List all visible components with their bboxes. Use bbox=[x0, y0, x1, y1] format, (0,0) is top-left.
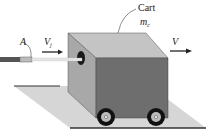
jet-velocity-subscript: j bbox=[50, 42, 52, 48]
water-jet bbox=[32, 58, 82, 61]
cart-label: Cart bbox=[138, 3, 155, 13]
cart-velocity-arrowhead bbox=[186, 49, 192, 54]
nozzle bbox=[20, 57, 32, 62]
cart-velocity-label: V bbox=[172, 37, 178, 47]
cart-leader-line bbox=[118, 9, 136, 33]
hose bbox=[0, 57, 20, 62]
jet-velocity-arrowhead bbox=[58, 50, 63, 55]
wheel-front bbox=[147, 108, 165, 126]
nozzle-area-label: A bbox=[20, 37, 26, 47]
cart-jet-diagram bbox=[0, 0, 213, 137]
wheel-rear bbox=[97, 108, 115, 126]
cart-mass-label: mc bbox=[140, 17, 150, 28]
cart-mass-subscript: c bbox=[147, 22, 150, 28]
jet-velocity-label: Vj bbox=[44, 37, 52, 48]
